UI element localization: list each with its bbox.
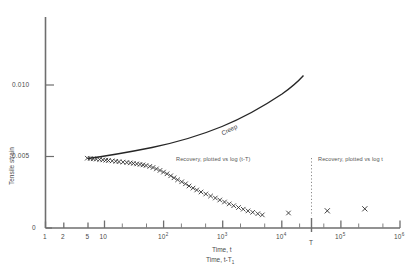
x-tick-marks-major: [46, 221, 401, 229]
creep-curve: [88, 76, 304, 159]
x-axis-title-secondary-subscript: 1: [232, 260, 235, 265]
x-tick-label-10000: 104: [276, 233, 286, 240]
x-tick-label-1000-mantissa: 10: [217, 233, 225, 240]
x-tick-label-100000-exponent: 5: [343, 232, 346, 237]
x-axis-title-primary: Time, t: [212, 246, 232, 253]
x-axis-title-secondary: Time, t-T1: [206, 256, 234, 263]
recovery-log-t-label: Recovery, plotted vs log t: [318, 156, 383, 162]
x-axis-title-secondary-text: Time, t-T: [206, 256, 232, 263]
x-tick-label-10-text: 10: [100, 233, 108, 240]
x-tick-label-10000-mantissa: 10: [276, 233, 284, 240]
x-tick-label-10: 10: [100, 233, 108, 240]
x-tick-label-10000-exponent: 4: [284, 232, 287, 237]
y-tick-marks: [46, 85, 55, 228]
x-tick-label-1: 1: [43, 233, 47, 240]
x-tick-label-1000000-exponent: 6: [402, 232, 405, 237]
x-tick-label-1000000: 106: [394, 233, 404, 240]
x-tick-label-100-exponent: 2: [166, 232, 169, 237]
creep-recovery-chart: 0 0.005 0.010 Tensile strain 1 2 5 10 10…: [0, 0, 418, 275]
y-tick-label-0: 0: [32, 224, 36, 231]
recovery-log-t-markers: [325, 207, 367, 214]
recovery-log-t-minus-T-label: Recovery, plotted vs log (t-T): [176, 156, 250, 162]
x-tick-label-1000-exponent: 3: [225, 232, 228, 237]
y-tick-label-0010: 0.010: [12, 81, 29, 88]
x-tick-label-100000: 105: [335, 233, 345, 240]
recovery-log-t-minus-T-markers: [85, 156, 290, 217]
x-tick-label-T: T: [309, 239, 313, 246]
y-axis-title: Tensile strain: [8, 147, 15, 185]
x-tick-label-2: 2: [61, 233, 65, 240]
x-tick-label-1000000-mantissa: 10: [394, 233, 402, 240]
x-tick-label-100-mantissa: 10: [158, 233, 166, 240]
x-tick-label-1000: 103: [217, 233, 227, 240]
x-tick-label-100000-mantissa: 10: [335, 233, 343, 240]
x-tick-label-100: 102: [158, 233, 168, 240]
x-tick-label-5: 5: [86, 233, 90, 240]
